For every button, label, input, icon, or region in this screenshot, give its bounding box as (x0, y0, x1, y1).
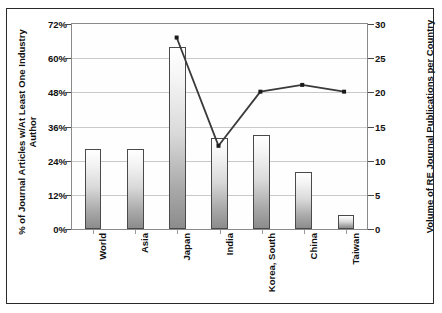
line-marker-india (217, 144, 221, 148)
y-tick-label-right: 25 (375, 53, 409, 64)
y-tick-label-right: 5 (375, 189, 409, 200)
line-marker-china (300, 83, 304, 87)
x-label-korea-south: Korea, South (266, 233, 277, 292)
x-label-taiwan: Taiwan (350, 233, 361, 265)
y-tick-mark-right (368, 92, 374, 93)
y-tick-mark-right (368, 127, 374, 128)
y-tick-mark-right (368, 24, 374, 25)
x-tick-mark (177, 230, 178, 234)
y-tick-mark-right (368, 161, 374, 162)
y-tick-label-left: 60% (13, 53, 67, 64)
x-label-china: China (308, 233, 319, 259)
line-marker-taiwan (342, 90, 346, 94)
y-tick-label-left: 72% (13, 19, 67, 30)
x-tick-mark (262, 230, 263, 234)
plot-area (71, 23, 368, 230)
y-tick-label-right: 30 (375, 19, 409, 30)
x-label-india: India (224, 233, 235, 255)
x-tick-mark (135, 230, 136, 234)
y-tick-label-right: 0 (375, 224, 409, 235)
x-tick-mark (93, 230, 94, 234)
y-axis-right-title: Volume of RE Journal Publications per Co… (424, 17, 435, 237)
chart-figure: % of Journal Articles w/At Least One Ind… (6, 8, 434, 304)
y-tick-label-left: 12% (13, 189, 67, 200)
x-label-japan: Japan (181, 233, 192, 260)
x-label-asia: Asia (139, 233, 150, 253)
y-tick-mark-right (368, 195, 374, 196)
y-tick-label-left: 0% (13, 224, 67, 235)
y-tick-mark-right (368, 229, 374, 230)
x-label-world: World (97, 233, 108, 260)
line-marker-korea-south (258, 90, 262, 94)
line-series (72, 24, 367, 229)
x-tick-mark (220, 230, 221, 234)
line-marker-japan (175, 36, 179, 40)
y-tick-mark-right (368, 58, 374, 59)
x-tick-mark (304, 230, 305, 234)
y-tick-label-right: 15 (375, 121, 409, 132)
y-tick-label-left: 36% (13, 121, 67, 132)
y-tick-label-right: 20 (375, 87, 409, 98)
y-tick-label-right: 10 (375, 155, 409, 166)
x-tick-mark (346, 230, 347, 234)
y-tick-label-left: 24% (13, 155, 67, 166)
y-tick-label-left: 48% (13, 87, 67, 98)
